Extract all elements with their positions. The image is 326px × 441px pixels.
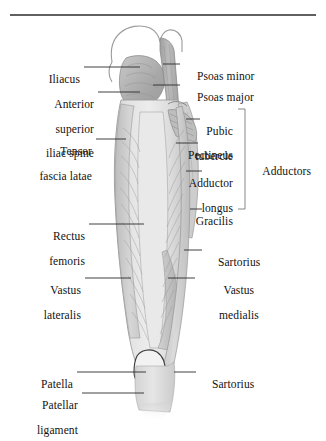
label-patellar-ligament: Patellar ligament <box>6 387 78 441</box>
label-vastus-med-line-1: Vastus <box>224 284 255 296</box>
label-rectus-line-2: femoris <box>49 255 85 267</box>
label-adductors: Adductors <box>251 153 311 190</box>
label-rectus-femoris: Rectus femoris <box>8 218 85 279</box>
label-gracilis-line-1: Gracilis <box>196 215 233 227</box>
label-pectineus-line-1: Pectineus <box>188 149 233 161</box>
label-patellar-lig-line-1: Patellar <box>42 399 78 411</box>
label-pubic-line-1: Pubic <box>206 125 233 137</box>
label-sartorius-upper-line-1: Sartorius <box>218 256 260 268</box>
label-vastus-lateralis: Vastus lateralis <box>8 272 81 333</box>
label-adductor-line-1: Adductor <box>189 177 233 189</box>
label-sartorius-lower-line-1: Sartorius <box>212 378 254 390</box>
label-gracilis: Gracilis <box>150 203 233 240</box>
label-psoas-major: Psoas major <box>185 79 254 116</box>
label-asis-line-1: Anterior <box>54 98 94 110</box>
label-vastus-lat-line-2: lateralis <box>44 309 81 321</box>
label-patellar-lig-line-2: ligament <box>37 424 78 436</box>
label-vastus-medialis: Vastus medialis <box>198 272 268 333</box>
label-tensor-line-1: Tensor <box>60 145 92 157</box>
label-rectus-line-1: Rectus <box>53 230 85 242</box>
label-iliacus-line-1: Iliacus <box>49 73 80 85</box>
adductors-bracket <box>238 109 245 209</box>
label-adductors-text: Adductors <box>262 165 311 177</box>
label-vastus-lat-line-1: Vastus <box>50 284 81 296</box>
label-sartorius-lower: Sartorius <box>200 366 254 403</box>
label-tensor-fascia-latae: Tensor fascia latae <box>6 133 92 194</box>
label-tensor-line-2: fascia latae <box>39 170 92 182</box>
label-psoas-major-line-1: Psoas major <box>197 91 254 103</box>
label-vastus-med-line-2: medialis <box>219 309 259 321</box>
